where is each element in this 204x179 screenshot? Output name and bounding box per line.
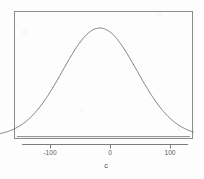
figure-canvas: -100 0 100 c [0,0,204,179]
plot-frame [15,12,193,139]
x-tick-label-neg100: -100 [43,149,57,156]
x-axis-title: c [104,161,108,170]
density-curve [0,28,193,134]
x-tick-label-100: 100 [164,149,175,156]
density-plot: -100 0 100 c [0,0,204,179]
x-tick-label-zero: 0 [108,149,112,156]
